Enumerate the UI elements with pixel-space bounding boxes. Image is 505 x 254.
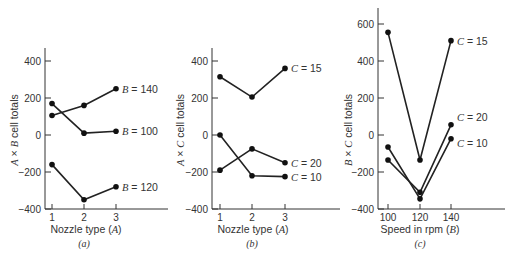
panel-caption: (a) (78, 238, 90, 250)
series-line (220, 68, 285, 97)
y-axis-label: A × B cell totals (8, 94, 20, 167)
x-tick-label: 1 (49, 212, 55, 223)
data-point (249, 146, 255, 152)
x-tick-label: 1 (217, 212, 223, 223)
x-tick-label: 2 (249, 212, 255, 223)
y-tick-label: 400 (357, 56, 374, 67)
data-point (81, 103, 87, 109)
data-point (448, 122, 454, 128)
chart-panel-b: 4002000−200−400123Nozzle type (A)A × C c… (174, 48, 340, 250)
data-point (49, 113, 55, 119)
data-point (81, 197, 87, 203)
series-label: B = 100 (122, 125, 158, 137)
y-tick-label: 600 (357, 19, 374, 30)
x-axis-label: Speed in rpm (B) (381, 223, 460, 235)
y-tick-label: −400 (351, 204, 374, 215)
data-point (448, 136, 454, 142)
y-tick-label: 0 (368, 130, 374, 141)
y-tick-label: 200 (24, 93, 41, 104)
x-tick-label: 3 (282, 212, 288, 223)
panel-caption: (c) (414, 238, 426, 250)
data-point (113, 129, 119, 135)
y-tick-label: −200 (18, 167, 41, 178)
y-tick-label: 200 (191, 93, 208, 104)
data-point (217, 74, 223, 80)
series-label: C = 10 (457, 137, 488, 149)
data-point (113, 184, 119, 190)
series-label: B = 120 (122, 181, 158, 193)
interaction-plots: 4002000−200−400123Nozzle type (A)A × B c… (0, 0, 505, 254)
y-tick-label: 400 (191, 56, 208, 67)
data-point (385, 30, 391, 36)
data-point (113, 86, 119, 92)
series-line (220, 135, 285, 177)
x-tick-label: 140 (443, 212, 460, 223)
x-tick-label: 3 (113, 212, 119, 223)
y-tick-label: −400 (185, 204, 208, 215)
y-tick-label: 200 (357, 93, 374, 104)
data-point (49, 162, 55, 168)
chart-panel-c: 6004002000−200−400100120140Speed in rpm … (342, 8, 505, 250)
x-axis-label: Nozzle type (A) (217, 223, 288, 235)
x-tick-label: 2 (81, 212, 87, 223)
x-tick-label: 120 (412, 212, 429, 223)
panel-caption: (b) (246, 238, 258, 250)
data-point (385, 157, 391, 163)
data-point (417, 157, 423, 163)
y-tick-label: 400 (24, 56, 41, 67)
series-label: B = 140 (122, 83, 158, 95)
y-tick-label: 0 (35, 130, 41, 141)
data-point (448, 38, 454, 44)
data-point (249, 94, 255, 100)
y-tick-label: 0 (202, 130, 208, 141)
data-point (385, 144, 391, 150)
series-label: C = 15 (457, 35, 488, 47)
data-point (249, 173, 255, 179)
data-point (282, 160, 288, 166)
x-tick-label: 100 (380, 212, 397, 223)
y-axis-label: B × C cell totals (342, 94, 354, 166)
y-tick-label: −400 (18, 204, 41, 215)
chart-panel-a: 4002000−200−400123Nozzle type (A)A × B c… (8, 48, 168, 250)
series-label: C = 20 (291, 157, 322, 169)
data-point (217, 132, 223, 138)
series-label: C = 10 (291, 171, 322, 183)
y-tick-label: −200 (185, 167, 208, 178)
x-axis-label: Nozzle type (A) (50, 223, 121, 235)
data-point (81, 130, 87, 136)
data-point (282, 66, 288, 72)
data-point (217, 167, 223, 173)
series-label: C = 20 (457, 111, 488, 123)
data-point (282, 174, 288, 180)
series-line (220, 149, 285, 170)
data-point (49, 101, 55, 107)
series-line (52, 165, 116, 200)
series-label: C = 15 (291, 62, 322, 74)
y-tick-label: −200 (351, 167, 374, 178)
series-line (388, 32, 451, 160)
data-point (417, 196, 423, 202)
y-axis-label: A × C cell totals (174, 94, 186, 167)
